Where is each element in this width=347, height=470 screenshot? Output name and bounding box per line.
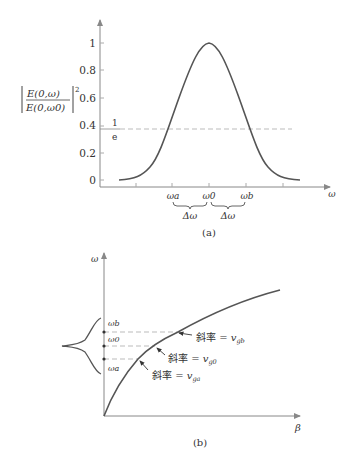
slope-label-0: 斜率 = vg0 [168, 352, 217, 366]
delta-braces [173, 202, 245, 209]
caption-a: (a) [202, 227, 216, 238]
svg-text:E(0,ω0): E(0,ω0) [25, 102, 65, 113]
y-tick-0.4: 0.4 [79, 119, 96, 131]
omega-b-label: ωb [108, 319, 120, 328]
y-tick-1: 1 [89, 37, 96, 49]
svg-text:2: 2 [75, 86, 79, 94]
panel-b: ω β ωb ω0 ωa 斜率 = vgb 斜率 [62, 253, 301, 448]
y-axis-label-a: E(0,ω) E(0,ω0) 2 [22, 86, 79, 113]
figure: 0 0.2 0.4 0.6 0.8 1 E(0,ω) E(0,ω0) 2 1 e… [0, 0, 347, 470]
y-tick-0: 0 [89, 174, 96, 186]
slope-label-a: 斜率 = vga [152, 369, 201, 383]
x-axis-label-a: ω [328, 189, 336, 199]
caption-b: (b) [193, 437, 207, 448]
x-tick-omega-b: ωb [240, 191, 253, 201]
gaussian-curve [119, 43, 300, 180]
x-tick-omega-0: ω0 [202, 191, 215, 201]
spectrum-curve [62, 318, 101, 374]
x-tick-omega-a: ωa [167, 191, 180, 201]
slope-label-b: 斜率 = vgb [196, 331, 245, 345]
x-ticks-a [136, 183, 283, 187]
delta-omega-left: Δω [182, 210, 198, 221]
x-axis-label-b: β [294, 422, 301, 433]
svg-text:E(0,ω): E(0,ω) [26, 88, 60, 99]
y-ticks-a [100, 43, 104, 180]
svg-text:1: 1 [112, 118, 118, 128]
omega-0-label: ω0 [108, 335, 120, 344]
delta-omega-right: Δω [220, 210, 236, 221]
svg-text:e: e [112, 132, 117, 142]
omega-a-label: ωa [108, 364, 120, 373]
y-tick-0.8: 0.8 [79, 64, 96, 76]
y-tick-0.6: 0.6 [79, 92, 96, 104]
panel-a: 0 0.2 0.4 0.6 0.8 1 E(0,ω) E(0,ω0) 2 1 e… [22, 20, 336, 238]
y-tick-0.2: 0.2 [79, 147, 96, 159]
y-axis-label-b: ω [91, 254, 99, 264]
threshold-1-over-e: 1 e [100, 118, 292, 142]
